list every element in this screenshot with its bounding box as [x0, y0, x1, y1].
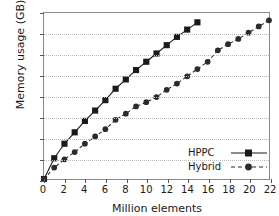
data-point-hybrid [102, 126, 108, 132]
data-point-hppc [92, 107, 98, 113]
x-tick-label: 18 [222, 184, 235, 195]
x-tick-label: 14 [181, 184, 194, 195]
x-tick-mark [106, 179, 107, 183]
x-axis-title: Million elements [43, 202, 271, 215]
x-tick-mark [188, 179, 189, 183]
data-point-hybrid [256, 24, 262, 30]
gridline-horizontal [44, 139, 269, 140]
y-tick-mark [40, 76, 44, 77]
data-point-hppc [143, 59, 149, 65]
data-point-hppc [72, 129, 78, 135]
legend-item-hybrid: Hybrid [188, 160, 268, 174]
data-point-hppc [123, 76, 129, 82]
y-tick-mark [40, 13, 44, 14]
x-tick-mark [85, 179, 86, 183]
x-tick-mark [127, 179, 128, 183]
data-point-hybrid [174, 81, 180, 87]
x-tick-label: 8 [122, 184, 128, 195]
data-point-hybrid [143, 99, 149, 105]
x-tick-label: 0 [40, 184, 46, 195]
data-point-hppc [184, 27, 190, 33]
data-point-hppc [113, 86, 119, 92]
x-tick-label: 10 [140, 184, 153, 195]
gridline-horizontal [44, 55, 269, 56]
data-point-hybrid [51, 165, 57, 171]
x-tick-mark [65, 179, 66, 183]
data-point-hybrid [133, 104, 139, 110]
data-point-hybrid [205, 59, 211, 65]
data-point-hppc [61, 141, 67, 147]
y-tick-mark [40, 55, 44, 56]
gridline-horizontal [44, 76, 269, 77]
legend-item-hppc: HPPC [188, 146, 268, 160]
x-tick-label: 6 [102, 184, 108, 195]
data-point-hybrid [164, 87, 170, 93]
x-tick-mark [209, 179, 210, 183]
gridline-horizontal [44, 34, 269, 35]
y-tick-mark [40, 160, 44, 161]
x-tick-label: 22 [264, 184, 277, 195]
data-point-hppc [102, 97, 108, 103]
x-tick-label: 16 [202, 184, 215, 195]
x-tick-mark [230, 179, 231, 183]
legend-label-hppc: HPPC [188, 146, 230, 160]
x-tick-label: 12 [160, 184, 173, 195]
x-tick-label: 4 [81, 184, 87, 195]
y-tick-mark [40, 97, 44, 98]
y-tick-mark [40, 139, 44, 140]
data-point-hppc [164, 42, 170, 48]
gridline-horizontal [44, 118, 269, 119]
x-tick-mark [44, 179, 45, 183]
x-tick-label: 20 [243, 184, 256, 195]
legend-label-hybrid: Hybrid [188, 160, 230, 174]
y-tick-mark [40, 118, 44, 119]
data-point-hybrid [266, 17, 272, 23]
x-tick-mark [271, 179, 272, 183]
x-tick-mark [168, 179, 169, 183]
series-line-hppc [44, 22, 197, 179]
data-point-hybrid [215, 47, 221, 53]
data-point-hybrid [123, 111, 129, 117]
x-tick-label: 2 [60, 184, 66, 195]
data-point-hybrid [72, 149, 78, 155]
legend: HPPC Hybrid [188, 146, 268, 174]
gridline-horizontal [44, 97, 269, 98]
data-point-hppc [133, 67, 139, 73]
y-tick-mark [40, 34, 44, 35]
legend-swatch-hybrid [230, 160, 268, 174]
data-point-hppc [194, 19, 200, 25]
data-point-hybrid [235, 36, 241, 42]
legend-swatch-hppc [230, 146, 268, 160]
x-tick-mark [250, 179, 251, 183]
data-point-hybrid [195, 66, 201, 72]
data-point-hybrid [225, 41, 231, 47]
data-point-hybrid [82, 141, 88, 147]
x-tick-mark [147, 179, 148, 183]
memory-usage-line-chart: Memory usage (GB) 0.00.20.40.60.81.01.21… [0, 0, 279, 216]
y-axis-title: Memory usage (GB) [14, 0, 27, 120]
